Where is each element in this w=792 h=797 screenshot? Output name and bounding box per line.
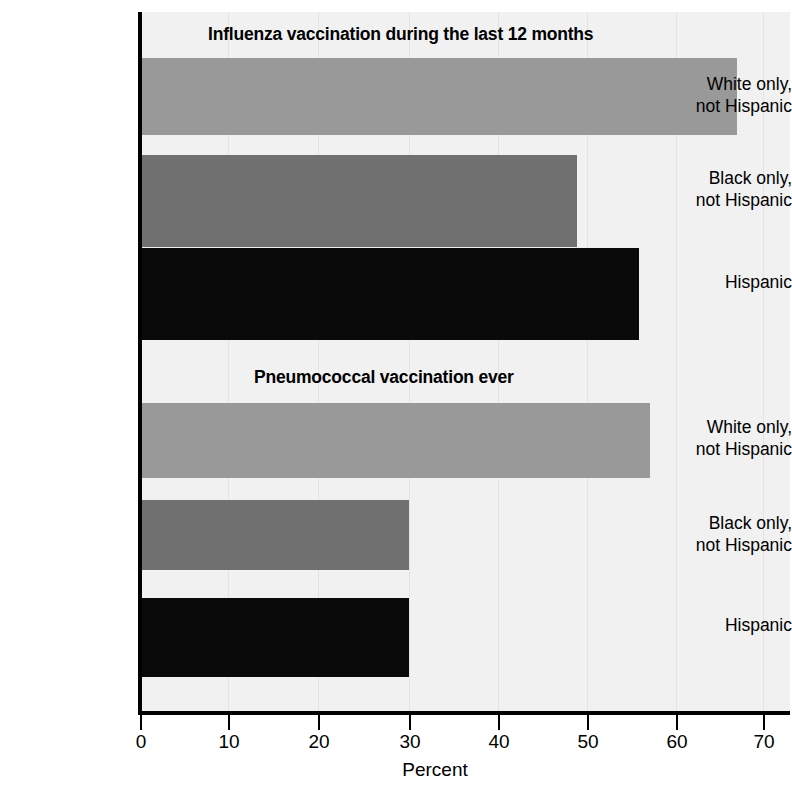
category-label-black-pneumococcal: Black only, not Hispanic — [659, 512, 792, 556]
tick-mark-30 — [409, 715, 411, 730]
tick-label-10: 10 — [218, 731, 239, 753]
plot-area — [141, 12, 790, 713]
category-label-white-pneumococcal: White only, not Hispanic — [659, 416, 792, 460]
x-axis-title-wrapper: Percent — [0, 759, 792, 781]
tick-mark-50 — [587, 715, 589, 730]
tick-mark-0 — [140, 715, 142, 730]
tick-label-50: 50 — [577, 731, 598, 753]
tick-mark-20 — [318, 715, 320, 730]
tick-label-60: 60 — [666, 731, 687, 753]
tick-label-70: 70 — [753, 731, 774, 753]
category-label-hispanic-influenza: Hispanic — [659, 271, 792, 293]
bar-influenza-white — [141, 58, 737, 135]
x-axis-title: Percent — [402, 759, 467, 780]
tick-label-40: 40 — [488, 731, 509, 753]
tick-mark-60 — [676, 715, 678, 730]
bar-influenza-black — [141, 155, 577, 247]
bar-pneumococcal-black — [141, 500, 409, 570]
tick-mark-10 — [228, 715, 230, 730]
tick-label-0: 0 — [136, 731, 147, 753]
y-axis-line — [138, 12, 142, 715]
bar-pneumococcal-hispanic — [141, 598, 409, 677]
x-axis-line — [138, 711, 790, 715]
tick-label-20: 20 — [308, 731, 329, 753]
panel-title-influenza: Influenza vaccination during the last 12… — [208, 24, 593, 45]
category-label-black-influenza: Black only, not Hispanic — [659, 167, 792, 211]
category-label-hispanic-pneumococcal: Hispanic — [659, 614, 792, 636]
gridline-70 — [763, 12, 764, 713]
tick-label-30: 30 — [399, 731, 420, 753]
bar-pneumococcal-white — [141, 403, 650, 478]
tick-mark-70 — [763, 715, 765, 730]
panel-title-pneumococcal: Pneumococcal vaccination ever — [254, 367, 514, 388]
tick-mark-40 — [498, 715, 500, 730]
chart-figure: Influenza vaccination during the last 12… — [0, 0, 792, 797]
category-label-white-influenza: White only, not Hispanic — [659, 73, 792, 117]
bar-influenza-hispanic — [141, 248, 639, 340]
